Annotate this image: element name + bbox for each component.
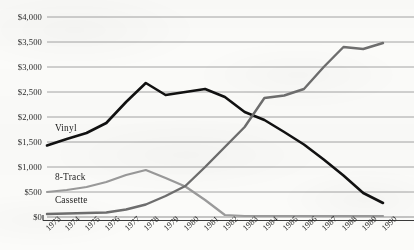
x-axis-tick-label: 1978 bbox=[142, 215, 161, 233]
x-axis-tick-label: 1990 bbox=[380, 215, 399, 233]
x-axis-tick-label: 1985 bbox=[281, 215, 300, 233]
series-label-vinyl: Vinyl bbox=[55, 123, 77, 133]
series-label-8-track: 8-Track bbox=[55, 172, 86, 182]
x-axis-tick-label: 1977 bbox=[123, 215, 142, 233]
x-axis-tick-label: 1976 bbox=[103, 215, 122, 233]
x-axis-tick-label: 1980 bbox=[182, 215, 201, 233]
x-axis-tick-label: 1973 bbox=[44, 215, 63, 233]
series-label-cassette: Cassette bbox=[55, 195, 88, 205]
x-axis-tick-label: 1979 bbox=[162, 215, 181, 233]
x-axis-tick-label: 1988 bbox=[340, 215, 359, 233]
x-axis-tick-label: 1982 bbox=[221, 215, 240, 233]
chart-container: $0$500$1,000$1,500$2,000$2,500$3,000$3,5… bbox=[0, 0, 414, 250]
x-axis-tick-label: 1984 bbox=[261, 215, 280, 233]
x-axis-tick-label: 1981 bbox=[202, 215, 221, 233]
x-axis-tick-label: 1974 bbox=[63, 215, 82, 233]
x-axis-tick-label: 1989 bbox=[360, 215, 379, 233]
x-axis-tick-label: 1975 bbox=[83, 215, 102, 233]
x-axis-tick-label: 1986 bbox=[300, 215, 319, 233]
x-axis-tick-label: 1987 bbox=[320, 215, 339, 233]
x-axis-tick-label: 1983 bbox=[241, 215, 260, 233]
